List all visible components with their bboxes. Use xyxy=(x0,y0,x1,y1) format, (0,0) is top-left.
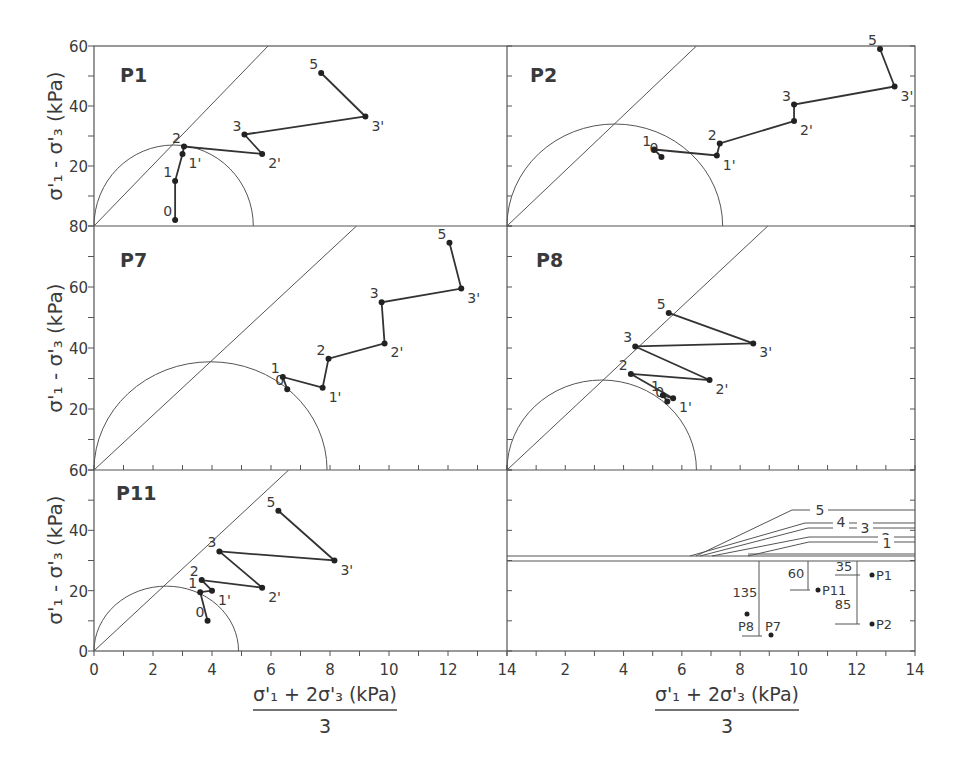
point-label: 3' xyxy=(901,88,914,104)
point-label: 3 xyxy=(370,285,379,301)
depth-profile-diagram: 5 4 3 2 1 135 60 35 85 P1 xyxy=(507,502,915,638)
svg-text:12: 12 xyxy=(438,661,457,679)
stress-point xyxy=(670,395,676,401)
point-label: 1' xyxy=(218,592,231,608)
stress-point xyxy=(717,141,723,147)
svg-text:2: 2 xyxy=(148,661,158,679)
point-label: 3' xyxy=(759,344,772,360)
point-label: 5 xyxy=(266,494,275,510)
point-label: 3 xyxy=(782,88,791,104)
point-label: 2' xyxy=(391,344,404,360)
x-axis-title-left: σ'₁ + 2σ'₃ (kPa) 3 xyxy=(253,683,397,737)
point-label: 3 xyxy=(207,534,216,550)
stress-point xyxy=(666,310,672,316)
stress-point xyxy=(197,589,203,595)
svg-text:60: 60 xyxy=(69,279,88,297)
point-label: 2 xyxy=(708,127,717,143)
stress-point xyxy=(280,374,286,380)
stress-path xyxy=(631,313,753,401)
panel-title-p11: P11 xyxy=(116,482,156,504)
site-label-p1: P1 xyxy=(876,568,892,583)
stress-path-panels: 011'22'33'5011'22'33'5011'22'33'5011'22'… xyxy=(94,32,913,651)
svg-text:6: 6 xyxy=(266,661,276,679)
stress-point xyxy=(259,151,265,157)
point-label: 2' xyxy=(268,155,281,171)
stress-point xyxy=(446,240,452,246)
stress-point xyxy=(326,356,332,362)
stress-point xyxy=(172,178,178,184)
mohr-circle xyxy=(94,362,327,470)
svg-text:0: 0 xyxy=(78,643,88,661)
panel-titles: P1 P2 P7 P8 P11 xyxy=(116,64,563,504)
svg-text:14: 14 xyxy=(497,661,516,679)
svg-text:4: 4 xyxy=(207,661,217,679)
svg-text:10: 10 xyxy=(379,661,398,679)
stress-point xyxy=(658,154,664,160)
site-label-p11: P11 xyxy=(822,583,846,598)
svg-text:60: 60 xyxy=(69,38,88,56)
stress-point xyxy=(199,577,205,583)
layer-label-1: 1 xyxy=(883,535,892,551)
point-label: 1' xyxy=(723,157,736,173)
point-label: 3' xyxy=(467,290,480,306)
svg-text:8: 8 xyxy=(325,661,335,679)
stress-point xyxy=(632,343,638,349)
svg-text:10: 10 xyxy=(789,661,808,679)
y-axis-title-row1: σ'₁ - σ'₃ (kPa) xyxy=(43,71,67,200)
mohr-circle xyxy=(94,145,253,226)
point-label: 1 xyxy=(651,378,660,394)
svg-text:4: 4 xyxy=(619,661,629,679)
layer-label-3: 3 xyxy=(861,520,870,536)
panel-title-p1: P1 xyxy=(120,64,147,86)
point-label: 5 xyxy=(309,56,318,72)
svg-text:3: 3 xyxy=(721,715,733,737)
y-tick-labels: 60 40 20 80 60 40 20 60 40 20 0 xyxy=(69,38,88,661)
site-label-p2: P2 xyxy=(876,617,892,632)
svg-text:0: 0 xyxy=(89,661,99,679)
svg-text:14: 14 xyxy=(905,661,924,679)
point-label: 2 xyxy=(190,563,199,579)
svg-text:40: 40 xyxy=(69,340,88,358)
stress-point xyxy=(181,144,187,150)
point-label: 5 xyxy=(868,32,877,48)
stress-point xyxy=(209,588,215,594)
mohr-circle xyxy=(94,586,239,651)
svg-text:3: 3 xyxy=(319,715,331,737)
point-label: 1 xyxy=(642,133,651,149)
point-label: 2 xyxy=(619,357,628,373)
stress-point xyxy=(284,386,290,392)
stress-point xyxy=(651,147,657,153)
depth-label-35: 35 xyxy=(836,559,853,574)
mohr-circle xyxy=(507,124,723,226)
stress-point xyxy=(241,132,247,138)
y-axis-titles: σ'₁ - σ'₃ (kPa) σ'₁ - σ'₃ (kPa) σ'₁ - σ'… xyxy=(43,71,67,624)
stress-path xyxy=(283,243,461,389)
point-label: 3 xyxy=(232,118,241,134)
svg-text:20: 20 xyxy=(69,158,88,176)
point-label: 2 xyxy=(172,130,181,146)
panel-title-p2: P2 xyxy=(530,64,557,86)
x-axis-title-right: σ'₁ + 2σ'₃ (kPa) 3 xyxy=(655,683,799,737)
stress-path xyxy=(175,73,365,220)
panel-title-p7: P7 xyxy=(120,249,147,271)
depth-label-85: 85 xyxy=(835,597,852,612)
stress-point xyxy=(259,585,265,591)
stress-path-figure: 60 40 20 80 60 40 20 60 40 20 0 σ'₁ - σ'… xyxy=(0,0,956,763)
stress-point xyxy=(660,392,666,398)
point-label: 5 xyxy=(657,296,666,312)
point-label: 5 xyxy=(437,226,446,242)
stress-point xyxy=(707,377,713,383)
stress-point xyxy=(791,118,797,124)
point-label: 2' xyxy=(800,122,813,138)
stress-point xyxy=(318,70,324,76)
stress-point xyxy=(205,618,211,624)
stress-point xyxy=(275,508,281,514)
panel-p7: 011'22'33'5 xyxy=(94,226,480,470)
x-tick-labels: 024681012142468101214 xyxy=(89,661,924,679)
svg-text:40: 40 xyxy=(69,522,88,540)
point-label: 1' xyxy=(189,155,202,171)
svg-text:12: 12 xyxy=(847,661,866,679)
point-label: 1 xyxy=(163,164,172,180)
stress-point xyxy=(180,151,186,157)
layer-label-4: 4 xyxy=(837,514,846,530)
